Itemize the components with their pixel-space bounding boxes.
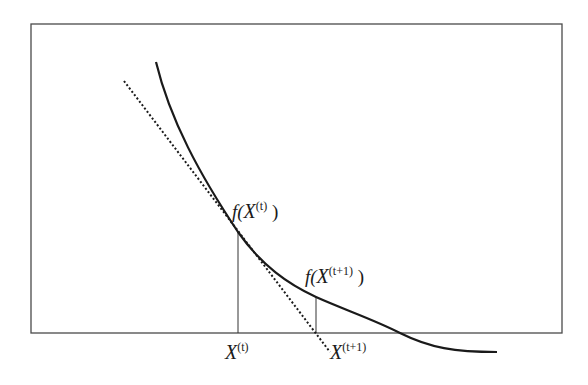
label-xt: X(t) — [224, 340, 249, 363]
label-xt1: X(t+1) — [329, 340, 366, 363]
label-f-xt: f(X(t) ) — [232, 199, 278, 223]
label-f-xt1: f(X(t+1) ) — [305, 264, 364, 288]
function-curve — [156, 62, 497, 352]
diagram-canvas: f(X(t) ) f(X(t+1) ) X(t) X(t+1) — [0, 0, 588, 385]
